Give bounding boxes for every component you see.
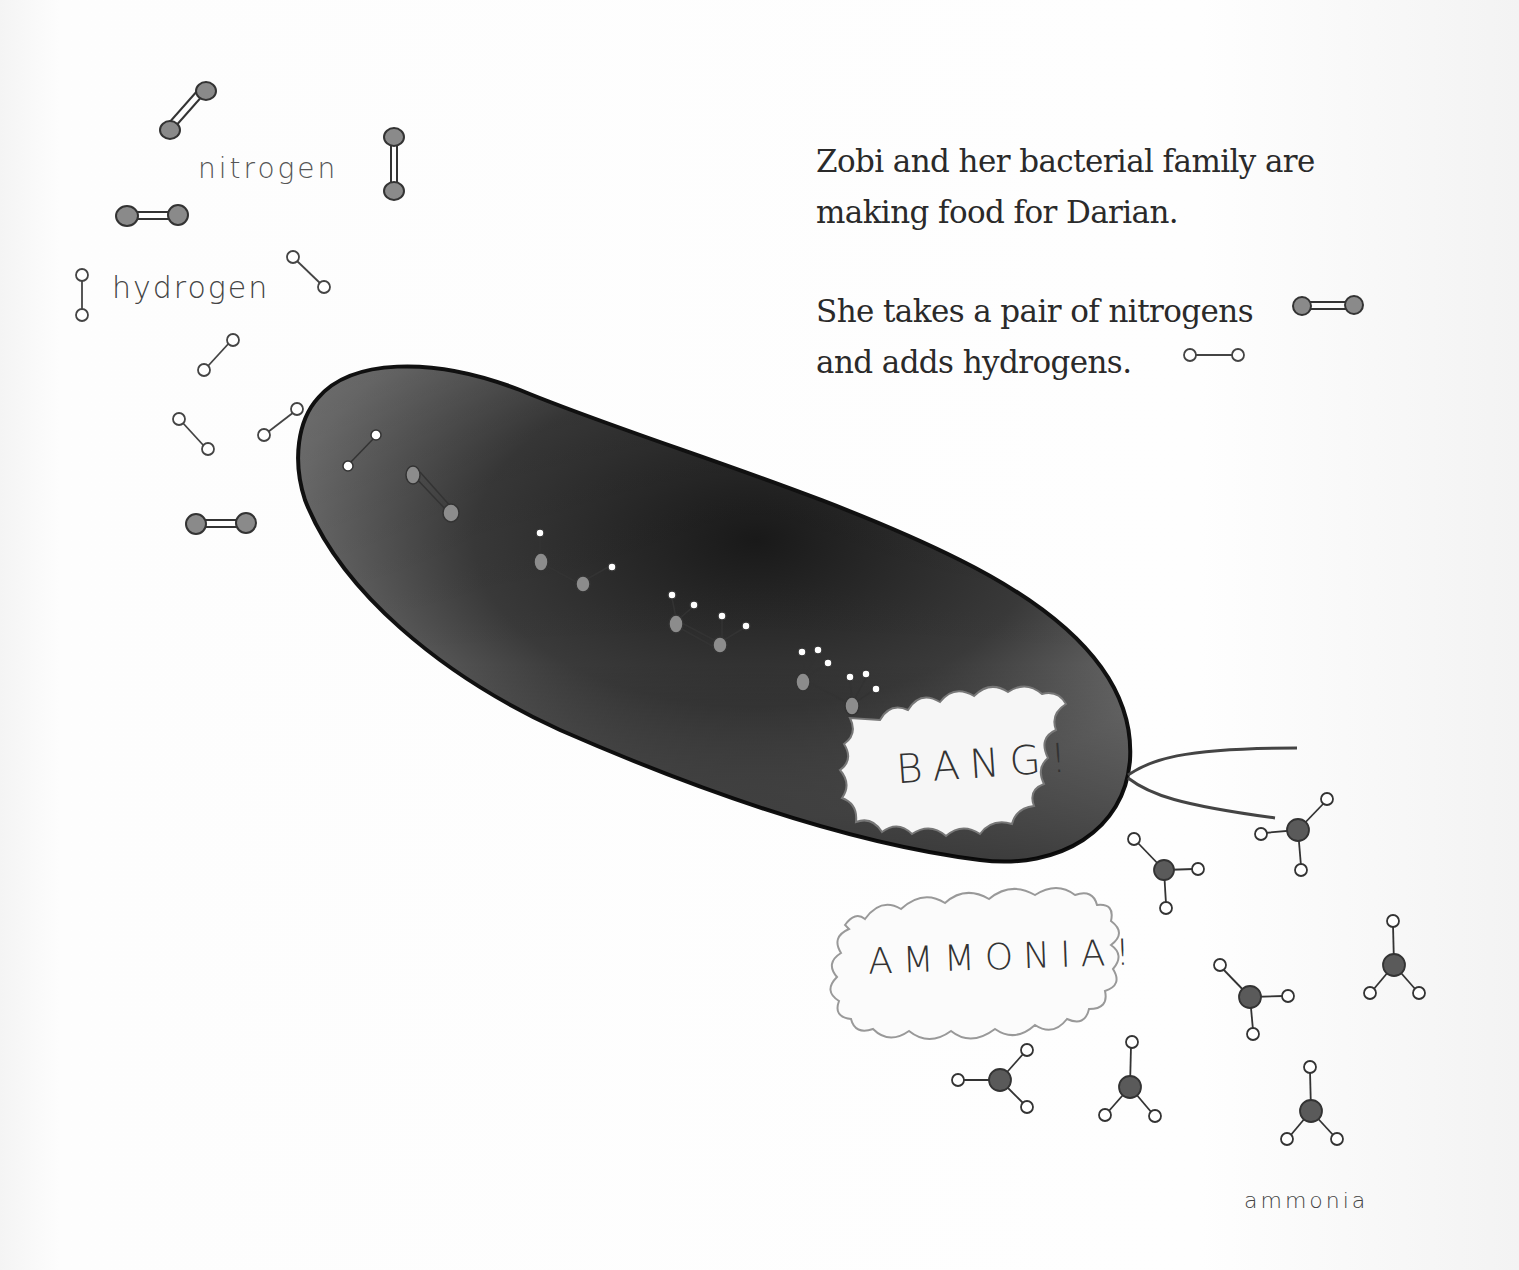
hydrogen-molecule-icon: [173, 413, 214, 455]
story-paragraph: Zobi and her bacterial family are making…: [816, 136, 1376, 238]
nitrogen-label: nitrogen: [198, 152, 338, 185]
ammonia-molecule-icon: [1255, 793, 1333, 876]
nitrogen-molecule-icon: [116, 205, 188, 226]
hydrogen-molecule-icon: [258, 403, 303, 441]
bacterium-cell-icon: [298, 366, 1297, 861]
ammonia-molecule-icon: [1281, 1061, 1343, 1145]
ammonia-molecule-icon: [1214, 959, 1294, 1040]
hydrogen-molecule-icon: [287, 251, 330, 293]
ammonia-molecule-icon: [952, 1044, 1033, 1113]
story-line: Zobi and her bacterial family are: [816, 136, 1376, 187]
hydrogen-label: hydrogen: [112, 270, 269, 305]
nitrogen-molecule-icon: [160, 82, 216, 139]
story-paragraph: She takes a pair of nitrogens and adds h…: [816, 286, 1376, 388]
ammonia-molecule-icon: [1364, 915, 1425, 999]
book-page: nitrogen hydrogen ammonia BANG! AMMONIA!…: [0, 0, 1519, 1270]
nitrogen-molecule-icon: [186, 513, 256, 534]
ammonia-label: ammonia: [1244, 1188, 1368, 1213]
hydrogen-molecule-icon: [198, 334, 239, 376]
hydrogen-molecule-icon: [76, 269, 88, 321]
story-text: Zobi and her bacterial family are making…: [816, 136, 1376, 436]
story-line: She takes a pair of nitrogens: [816, 286, 1376, 337]
story-line: making food for Darian.: [816, 187, 1376, 238]
ammonia-molecule-icon: [1099, 1036, 1161, 1122]
story-line: and adds hydrogens.: [816, 337, 1376, 388]
nitrogen-molecule-icon: [384, 128, 404, 200]
ammonia-molecule-icon: [1128, 833, 1204, 914]
